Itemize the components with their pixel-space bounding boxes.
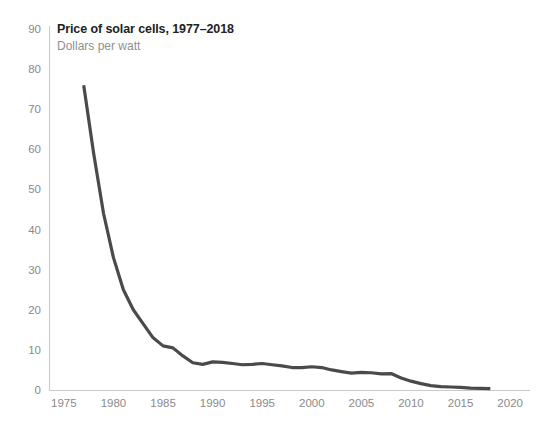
solar-price-chart: Price of solar cells, 1977–2018 Dollars … [0,0,549,429]
x-tick-label: 2015 [448,397,474,409]
y-tick-label: 80 [28,63,41,75]
y-tick-label: 10 [28,344,41,356]
x-tick-label: 1995 [249,397,275,409]
x-tick-label: 2020 [497,397,523,409]
y-tick-label: 20 [28,304,41,316]
x-tick-label: 1975 [51,397,77,409]
y-axis: 0102030405060708090 [28,23,49,396]
data-series-group [84,85,491,388]
y-tick-label: 50 [28,183,41,195]
x-tick-label: 1985 [150,397,176,409]
x-tick-label: 2010 [398,397,424,409]
x-tick-label: 2000 [299,397,325,409]
x-tick-label: 1990 [200,397,226,409]
y-tick-label: 40 [28,224,41,236]
x-tick-label: 2005 [349,397,375,409]
y-tick-label: 70 [28,103,41,115]
y-tick-label: 0 [35,384,41,396]
chart-plot-area: 0102030405060708090 19751980198519901995… [0,0,549,429]
x-tick-label: 1980 [101,397,127,409]
y-tick-label: 60 [28,143,41,155]
x-axis: 1975198019851990199520002005201020152020 [49,390,530,409]
series-line-solar-price [84,85,491,388]
y-tick-label: 90 [28,23,41,35]
y-tick-label: 30 [28,264,41,276]
